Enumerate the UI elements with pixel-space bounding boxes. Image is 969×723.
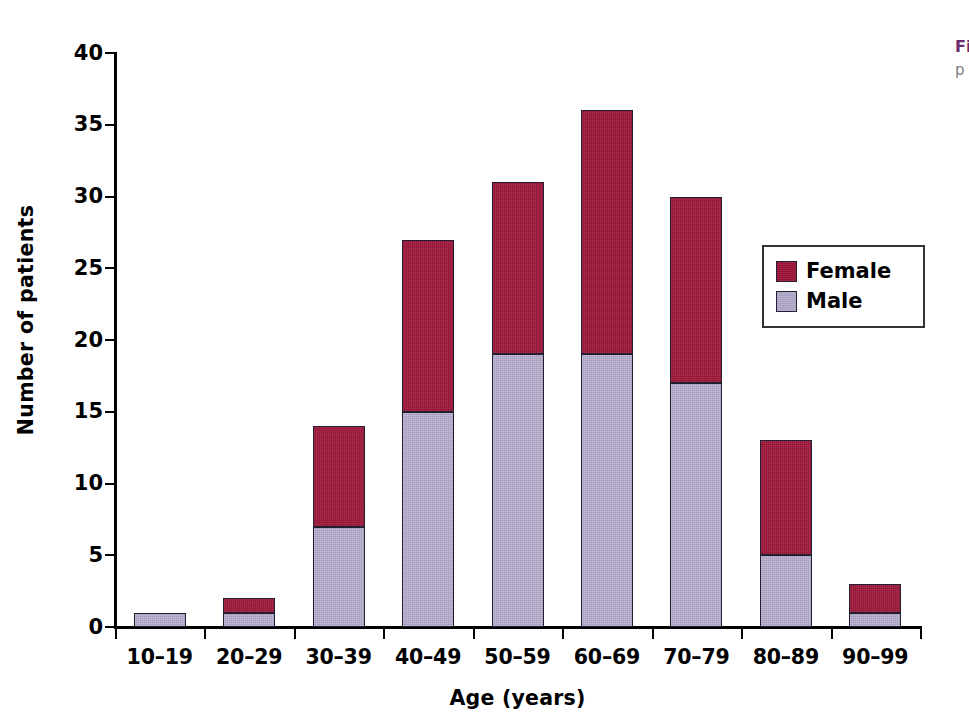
x-axis-tick [383,628,385,639]
bar-segment-male[interactable] [760,555,812,627]
bar-stack[interactable] [223,598,275,627]
x-axis-tick-label: 80–89 [741,645,830,669]
bar-segment-male[interactable] [581,354,633,627]
bar-segment-female[interactable] [492,182,544,354]
y-axis-tick-label: 35 [35,114,103,136]
legend-swatch-female-icon [776,261,797,282]
y-axis-tick-label-text: 10 [41,473,103,494]
y-axis-tick-label-text: 35 [41,114,103,135]
figure-caption: Figure p [955,38,969,98]
figure-root: Number of patients 0510152025303540 10–1… [0,0,969,723]
y-axis-tick [105,483,115,485]
x-axis-title: Age (years) [115,686,920,710]
y-axis-tick-label: 20 [35,329,103,351]
x-axis-tick-label: 30–39 [294,645,383,669]
x-axis-tick [204,628,206,639]
x-axis-tick [741,628,743,639]
bar-stack[interactable] [313,426,365,627]
bar-segment-male[interactable] [313,527,365,627]
x-axis-tick-label: 20–29 [204,645,293,669]
y-axis-tick-label: 15 [35,401,103,423]
y-axis-tick-label-text: 15 [41,401,103,422]
y-axis-tick-label: 10 [35,473,103,495]
legend-item-male[interactable]: Male [776,286,913,316]
bar-segment-male[interactable] [492,354,544,627]
x-axis-tick [115,628,117,639]
y-axis-tick [105,267,115,269]
y-axis-tick-label: 25 [35,257,103,279]
y-axis-tick-label-text: 20 [41,330,103,351]
y-axis-tick-label-text: 40 [41,43,103,64]
y-axis-tick-label: 0 [35,616,103,638]
bar-segment-female[interactable] [313,426,365,526]
figure-caption-title: Figure [955,38,969,56]
x-axis-tick-label: 10–19 [115,645,204,669]
legend-label-male: Male [806,291,863,312]
y-axis-tick [105,52,115,54]
bar-segment-female[interactable] [849,584,901,613]
bar-stack[interactable] [760,440,812,627]
legend-label-female: Female [806,261,891,282]
legend-item-female[interactable]: Female [776,256,913,286]
bar-stack[interactable] [134,613,186,627]
figure-caption-body: p [955,62,969,79]
x-axis-tick-label: 70–79 [652,645,741,669]
bar-segment-female[interactable] [402,240,454,412]
y-axis-tick-label-text: 5 [41,545,103,566]
y-axis-tick-label: 40 [35,42,103,64]
x-axis-tick-label: 40–49 [383,645,472,669]
y-axis-tick-label: 30 [35,186,103,208]
x-axis-tick-label: 50–59 [473,645,562,669]
y-axis-tick-label: 5 [35,544,103,566]
bar-segment-female[interactable] [223,598,275,612]
x-axis-tick [920,628,922,639]
x-axis-tick-label: 90–99 [831,645,920,669]
bar-stack[interactable] [492,182,544,627]
legend-swatch-male-icon [776,291,797,312]
plot-area [115,53,920,627]
y-axis-tick-label-text: 25 [41,258,103,279]
bar-segment-female[interactable] [760,440,812,555]
x-axis-tick [652,628,654,639]
bar-segment-male[interactable] [670,383,722,627]
bar-segment-male[interactable] [134,613,186,627]
y-axis-tick [105,554,115,556]
y-axis-tick [105,411,115,413]
y-axis-tick [105,196,115,198]
y-axis-tick [105,124,115,126]
bar-segment-male[interactable] [223,613,275,627]
x-axis-tick-label: 60–69 [562,645,651,669]
x-axis-tick [831,628,833,639]
y-axis-tick [105,339,115,341]
bar-segment-male[interactable] [849,613,901,627]
bar-stack[interactable] [402,240,454,627]
bar-stack[interactable] [849,584,901,627]
bar-segment-male[interactable] [402,412,454,627]
bar-stack[interactable] [581,110,633,627]
y-axis-tick [105,626,115,628]
x-axis-tick [562,628,564,639]
bar-stack[interactable] [670,197,722,628]
y-axis-tick-label-text: 30 [41,186,103,207]
y-axis-tick-label-text: 0 [41,617,103,638]
bar-segment-female[interactable] [670,197,722,384]
x-axis-tick [473,628,475,639]
bar-segment-female[interactable] [581,110,633,354]
chart-legend: Female Male [762,245,925,328]
x-axis-tick [294,628,296,639]
